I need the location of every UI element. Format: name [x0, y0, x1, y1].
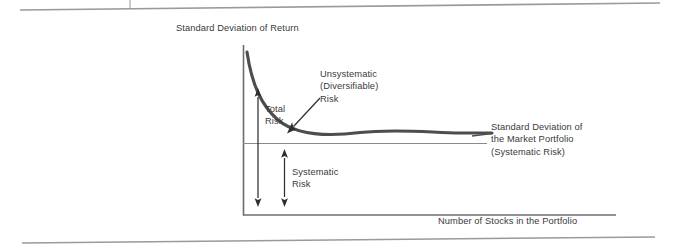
systematic-risk-label-line2: Risk: [292, 178, 338, 190]
total-risk-label: Total Risk: [265, 103, 285, 128]
market-portfolio-label: Standard Deviation of the Market Portfol…: [491, 121, 583, 158]
unsystematic-risk-label: Unsystematic (Diversifiable) Risk: [320, 68, 378, 105]
y-axis-title: Standard Deviation of Return: [176, 22, 299, 34]
unsystematic-risk-label-line1: Unsystematic: [320, 68, 378, 80]
systematic-risk-label-line1: Systematic: [292, 166, 338, 178]
unsystematic-risk-label-line3: Risk: [320, 93, 378, 105]
total-risk-label-line2: Risk: [265, 115, 285, 127]
unsystematic-risk-label-line2: (Diversifiable): [320, 80, 378, 92]
systematic-risk-label: Systematic Risk: [292, 166, 338, 191]
x-axis-title: Number of Stocks in the Portfolio: [438, 215, 577, 227]
market-portfolio-label-line2: the Market Portfolio: [491, 133, 583, 145]
market-portfolio-label-line1: Standard Deviation of: [491, 121, 583, 133]
total-risk-label-line1: Total: [265, 103, 285, 115]
market-portfolio-label-line3: (Systematic Risk): [491, 146, 583, 158]
